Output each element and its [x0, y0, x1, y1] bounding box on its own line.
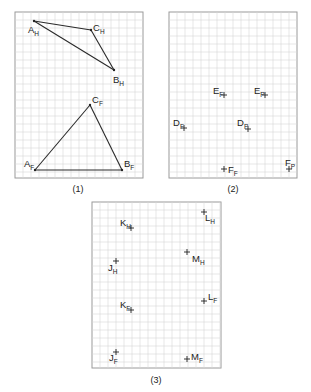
- panel-2: EFEPDFDPFFFP(2): [169, 12, 297, 194]
- panel-frame: [92, 202, 221, 368]
- panel-caption: (1): [73, 184, 84, 194]
- panel-1: AHCHBHCFAFBF(1): [15, 12, 143, 194]
- panel-caption: (2): [228, 184, 239, 194]
- vertex-dot-icon: [121, 169, 123, 171]
- vertex-dot-icon: [33, 20, 35, 22]
- panel-3: KHLHMHJHKFLFJFMF(3): [92, 202, 221, 385]
- vertex-dot-icon: [89, 104, 91, 106]
- vertex-dot-icon: [113, 69, 115, 71]
- figure-canvas: AHCHBHCFAFBF(1)EFEPDFDPFFFP(2)KHLHMHJHKF…: [0, 0, 311, 392]
- panel-caption: (3): [151, 375, 162, 385]
- vertex-dot-icon: [90, 29, 92, 31]
